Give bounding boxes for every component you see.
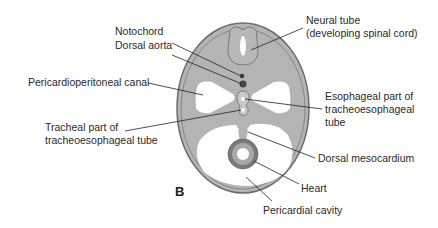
label-heart: Heart <box>301 182 327 195</box>
heart-lumen <box>237 148 249 160</box>
tracheal-lumen <box>241 108 245 112</box>
esophageal-lumen <box>241 97 245 101</box>
dorsal-aorta <box>240 81 246 87</box>
panel-letter: B <box>175 184 184 199</box>
label-neural-tube-line1: Neural tube <box>306 14 360 27</box>
label-tracheal-part-line2: tracheoesophageal tube <box>45 134 158 147</box>
label-neural-tube-line2: (developing spinal cord) <box>306 27 417 40</box>
label-dorsal-mesocardium: Dorsal mesocardium <box>318 152 414 165</box>
label-esophageal-part-line3: tube <box>325 116 345 129</box>
label-dorsal-aorta: Dorsal aorta <box>115 39 172 52</box>
label-esophageal-part-line1: Esophageal part of <box>325 90 413 103</box>
label-pericardioperitoneal-canal: Pericardioperitoneal canal <box>28 76 149 89</box>
label-esophageal-part-line2: tracheoesophageal <box>325 103 414 116</box>
label-pericardial-cavity: Pericardial cavity <box>263 204 342 217</box>
label-notochord: Notochord <box>115 25 163 38</box>
label-tracheal-part-line1: Tracheal part of <box>45 121 118 134</box>
neural-canal <box>240 36 246 56</box>
